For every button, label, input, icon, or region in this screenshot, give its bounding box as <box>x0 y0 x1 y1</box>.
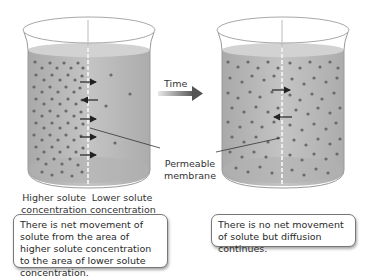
membrane-label-line1: Permeable <box>160 158 220 170</box>
lower-concentration-label: Lower solute concentration <box>90 192 154 215</box>
higher-label-line1: Higher solute <box>20 192 88 204</box>
left-caption-box: There is net movement of solute from the… <box>13 214 168 268</box>
higher-concentration-label: Higher solute concentration <box>20 192 88 215</box>
right-caption-box: There is no net movement of solute but d… <box>211 214 356 247</box>
left-beaker <box>23 17 160 188</box>
time-label: Time <box>164 78 187 89</box>
membrane-label-line2: membrane <box>160 170 220 182</box>
lower-label-line1: Lower solute <box>90 192 154 204</box>
membrane-label: Permeable membrane <box>160 158 220 181</box>
right-beaker <box>216 17 349 188</box>
